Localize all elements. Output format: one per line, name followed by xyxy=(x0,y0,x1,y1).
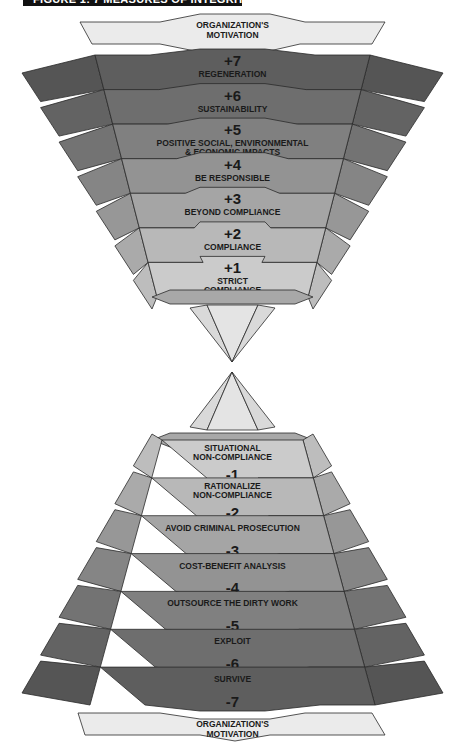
level-label: BEYOND COMPLIANCE xyxy=(185,207,281,217)
integrity-level-minus-4: COST-BENEFIT ANALYSIS-4 xyxy=(78,548,388,598)
level-score: +2 xyxy=(224,225,241,242)
level-label: SUSTAINABILITY xyxy=(198,104,268,114)
upper-motivation-banner: ORGANIZATION'SMOTIVATION xyxy=(80,14,385,52)
lower-pyramid: SITUATIONALNON-COMPLIANCE-1RATIONALIZENO… xyxy=(22,433,443,711)
lower-pyramid-tip xyxy=(190,372,275,430)
level-score: +3 xyxy=(224,190,241,207)
integrity-level-minus-7: SURVIVE-7 xyxy=(22,661,443,711)
upper-inverted-pyramid: +7REGENERATION+6SUSTAINABILITY+5POSITIVE… xyxy=(22,49,443,309)
level-left-facet xyxy=(115,472,152,516)
level-label: EXPLOIT xyxy=(214,636,251,646)
level-label: COST-BENEFIT ANALYSIS xyxy=(179,561,286,571)
level-left-facet xyxy=(22,661,100,705)
level-label: REGENERATION xyxy=(199,69,267,79)
level-score: +7 xyxy=(224,52,241,69)
level-left-facet xyxy=(78,548,131,592)
level-score: +6 xyxy=(224,87,241,104)
motivation-label-line: ORGANIZATION'S xyxy=(196,20,269,30)
upper-pyramid-tip xyxy=(190,305,275,362)
level-left-facet xyxy=(41,623,111,667)
level-label: OUTSOURCE THE DIRTY WORK xyxy=(167,598,299,608)
level-score: +4 xyxy=(224,156,242,173)
lower-motivation-banner: ORGANIZATION'SMOTIVATION xyxy=(78,713,385,741)
level-score: +1 xyxy=(224,259,241,276)
motivation-label-line: MOTIVATION xyxy=(206,729,258,739)
integrity-level-minus-6: EXPLOIT-6 xyxy=(41,623,425,673)
level-left-facet xyxy=(59,585,121,629)
integrity-level-minus-3: AVOID CRIMINAL PROSECUTION-3 xyxy=(96,510,368,560)
level-right-facet xyxy=(365,661,443,705)
level-label: AVOID CRIMINAL PROSECUTION xyxy=(165,523,300,533)
integrity-level-minus-2: RATIONALIZENON-COMPLIANCE-2 xyxy=(115,472,350,522)
integrity-level-minus-5: OUTSOURCE THE DIRTY WORK-5 xyxy=(59,585,406,635)
level-label: SURVIVE xyxy=(214,674,251,684)
integrity-hourglass-diagram: ORGANIZATION'SMOTIVATION +7REGENERATION+… xyxy=(0,0,465,747)
motivation-label-line: MOTIVATION xyxy=(206,30,258,40)
level-label: COMPLIANCE xyxy=(204,242,261,252)
motivation-label-line: ORGANIZATION'S xyxy=(196,719,269,729)
level-score: -7 xyxy=(226,693,239,710)
level-left-facet xyxy=(133,434,162,478)
upper-pyramid-rim xyxy=(152,290,313,304)
level-right-facet xyxy=(354,623,424,667)
level-left-facet xyxy=(96,510,141,554)
level-label: NON-COMPLIANCE xyxy=(193,452,272,462)
level-right-facet xyxy=(344,585,406,629)
level-label: NON-COMPLIANCE xyxy=(193,490,272,500)
level-score: +5 xyxy=(224,121,241,138)
level-label: BE RESPONSIBLE xyxy=(195,173,270,183)
